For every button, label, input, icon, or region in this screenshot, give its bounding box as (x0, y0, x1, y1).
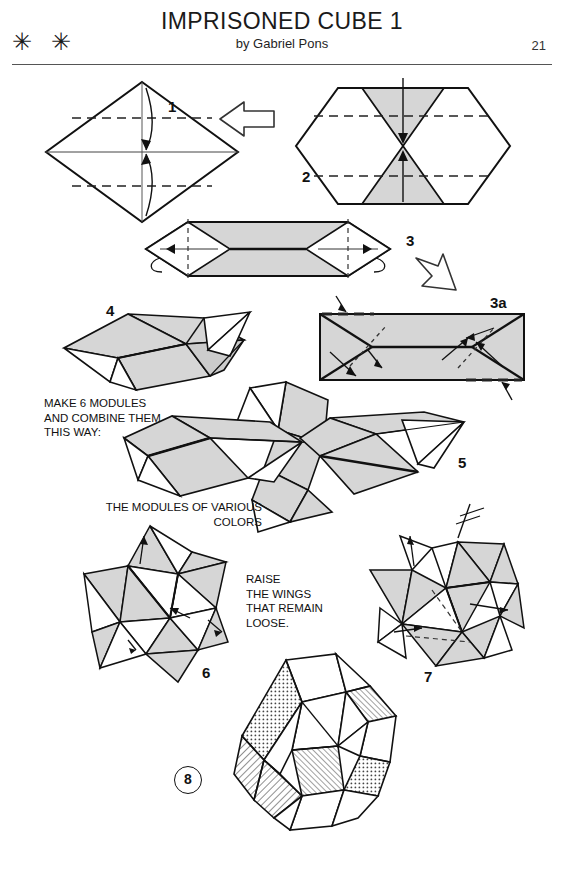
arrow-step1-to-step2-icon (218, 98, 278, 140)
step-label-4: 4 (106, 302, 114, 319)
step-label-5: 5 (458, 454, 466, 471)
figure-step-8: 8 (218, 650, 408, 836)
figure-step-1: 1 (42, 78, 242, 226)
figure-step-3: 3 (142, 218, 394, 280)
origami-instruction-page: IMPRISONED CUBE 1 by Gabriel Pons ✳ ✳ 21… (0, 0, 564, 879)
two-star-difficulty-icon: ✳ ✳ (12, 30, 77, 54)
step-label-3: 3 (406, 232, 414, 249)
page-title: IMPRISONED CUBE 1 (0, 8, 564, 35)
author-byline: by Gabriel Pons (0, 36, 564, 51)
step-label-3a: 3a (490, 294, 507, 311)
step-label-2: 2 (302, 168, 310, 185)
page-number: 21 (532, 38, 546, 53)
step-label-7: 7 (424, 668, 432, 685)
figure-step-2: 2 (292, 82, 514, 210)
note-raise-wings: RAISE THE WINGS THAT REMAIN LOOSE. (246, 572, 323, 630)
step-label-1: 1 (168, 98, 176, 115)
step-label-6: 6 (202, 664, 210, 681)
page-header: IMPRISONED CUBE 1 by Gabriel Pons ✳ ✳ 21 (0, 0, 564, 70)
arrow-step3-to-step3a-icon (412, 250, 464, 298)
header-divider (12, 64, 552, 65)
step-label-8: 8 (174, 766, 202, 794)
